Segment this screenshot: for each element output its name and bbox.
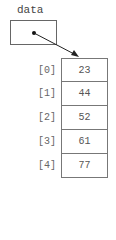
array-cell: [1] 44 <box>61 82 108 106</box>
array-value: 52 <box>78 112 90 123</box>
array-cell: [0] 23 <box>61 58 108 82</box>
array-cell: [4] 77 <box>61 154 108 178</box>
array-index: [3] <box>38 136 56 147</box>
array-cell: [2] 52 <box>61 106 108 130</box>
array-value: 44 <box>78 88 90 99</box>
array-index: [0] <box>38 65 56 76</box>
array-index: [4] <box>38 160 56 171</box>
array-value: 23 <box>78 65 90 76</box>
array-value: 77 <box>78 160 90 171</box>
array: [0] 23 [1] 44 [2] 52 [3] 61 [4] 77 <box>61 58 108 178</box>
array-index: [2] <box>38 112 56 123</box>
array-cell: [3] 61 <box>61 130 108 154</box>
array-index: [1] <box>38 88 56 99</box>
array-value: 61 <box>78 136 90 147</box>
